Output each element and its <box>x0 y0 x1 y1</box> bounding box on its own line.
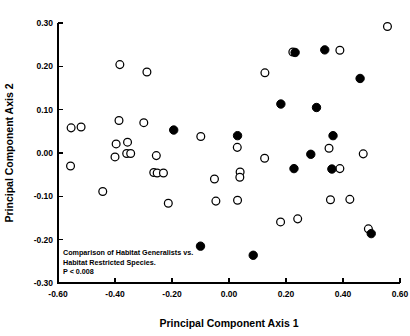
data-point-open <box>327 196 335 204</box>
data-point-open <box>99 188 107 196</box>
data-point-open <box>346 195 354 203</box>
y-tick-label: 0.10 <box>36 105 53 115</box>
data-points <box>67 23 392 260</box>
data-point-filled <box>249 251 257 259</box>
x-tick-label: -0.60 <box>48 289 68 299</box>
data-point-open <box>127 150 135 158</box>
data-point-filled <box>367 229 375 237</box>
data-point-filled <box>356 74 364 82</box>
data-point-open <box>212 197 220 205</box>
data-point-open <box>294 215 302 223</box>
data-point-filled <box>170 126 178 134</box>
y-tick-label: 0.30 <box>36 18 53 28</box>
data-point-open <box>197 133 205 141</box>
chart-canvas: -0.60-0.40-0.200.000.200.400.60 -0.30-0.… <box>0 0 410 336</box>
data-point-open <box>233 143 241 151</box>
x-tick-label: 0.60 <box>392 289 409 299</box>
y-axis-title: Principal Component Axis 2 <box>3 83 15 222</box>
data-point-open <box>67 162 75 170</box>
scatter-plot-figure: -0.60-0.40-0.200.000.200.400.60 -0.30-0.… <box>0 0 410 336</box>
y-tick-label: -0.30 <box>34 278 54 288</box>
data-point-open <box>234 196 242 204</box>
data-point-filled <box>321 46 329 54</box>
data-point-open <box>336 165 344 173</box>
data-point-open <box>277 218 285 226</box>
axis-ticks <box>58 23 400 283</box>
annotation-line-2: Habitat Restricted Species. <box>63 258 156 267</box>
data-point-filled <box>307 150 315 158</box>
data-point-open <box>359 150 367 158</box>
x-tick-label: -0.20 <box>162 289 182 299</box>
data-point-open <box>111 153 119 161</box>
annotation-line-3: P < 0.008 <box>63 267 94 276</box>
x-tick-labels: -0.60-0.40-0.200.000.200.400.60 <box>48 289 408 299</box>
data-point-open <box>115 117 123 125</box>
x-axis-title: Principal Component Axis 1 <box>159 317 298 329</box>
data-point-filled <box>290 164 298 172</box>
y-tick-label: -0.10 <box>34 191 54 201</box>
y-tick-label: 0.00 <box>36 148 53 158</box>
data-point-open <box>211 175 219 183</box>
data-point-filled <box>291 48 299 56</box>
data-point-filled <box>196 242 204 250</box>
x-tick-label: 0.20 <box>278 289 295 299</box>
annotation-line-1: Comparison of Habitat Generalists vs. <box>63 248 193 257</box>
data-point-open <box>336 46 344 54</box>
data-point-open <box>67 124 75 132</box>
data-point-filled <box>328 165 336 173</box>
data-point-filled <box>312 103 320 111</box>
data-point-open <box>152 152 160 160</box>
data-point-open <box>116 61 124 69</box>
data-point-open <box>325 144 333 152</box>
data-point-open <box>236 173 244 181</box>
data-point-filled <box>277 100 285 108</box>
data-point-open <box>124 138 132 146</box>
data-point-filled <box>329 131 337 139</box>
data-point-open <box>261 154 269 162</box>
x-tick-label: 0.40 <box>335 289 352 299</box>
y-tick-label: 0.20 <box>36 61 53 71</box>
axes <box>58 23 400 283</box>
data-point-open <box>384 23 392 31</box>
data-point-open <box>112 140 120 148</box>
y-tick-labels: -0.30-0.20-0.100.000.100.200.30 <box>34 18 54 288</box>
data-point-filled <box>233 131 241 139</box>
y-tick-label: -0.20 <box>34 235 54 245</box>
data-point-open <box>164 199 172 207</box>
data-point-open <box>261 69 269 77</box>
x-tick-label: -0.40 <box>105 289 125 299</box>
data-point-open <box>160 169 168 177</box>
data-point-open <box>77 123 85 131</box>
data-point-open <box>143 68 151 76</box>
x-tick-label: 0.00 <box>221 289 238 299</box>
data-point-open <box>140 119 148 127</box>
